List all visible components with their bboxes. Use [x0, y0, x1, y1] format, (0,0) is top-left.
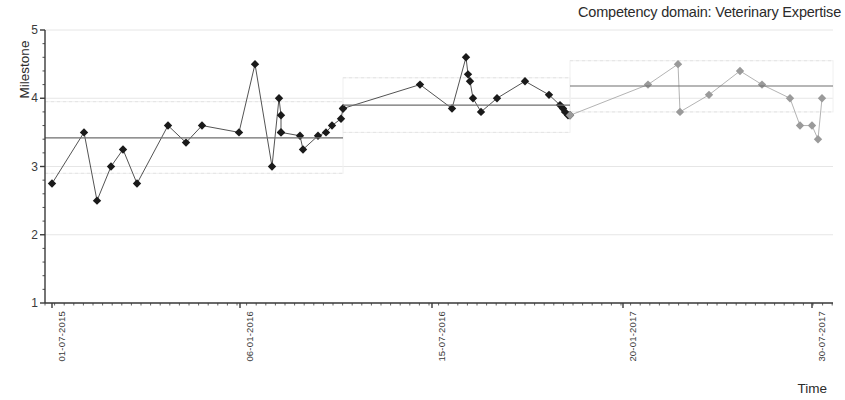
data-point: [48, 179, 56, 187]
plot-area: [0, 0, 845, 400]
data-point: [758, 80, 766, 88]
data-point: [277, 128, 285, 136]
data-point: [736, 67, 744, 75]
data-point: [296, 132, 304, 140]
data-point: [786, 94, 794, 102]
data-point: [814, 135, 822, 143]
data-point: [676, 108, 684, 116]
data-point: [462, 53, 470, 61]
data-point: [644, 80, 652, 88]
data-point: [80, 128, 88, 136]
data-point: [133, 179, 141, 187]
data-point: [277, 111, 285, 119]
data-point: [235, 128, 243, 136]
data-point: [808, 121, 816, 129]
chart-container: Competency domain: Veterinary Expertise …: [0, 0, 845, 400]
data-point: [337, 115, 345, 123]
series-line: [343, 57, 570, 115]
data-point: [796, 121, 804, 129]
data-point: [107, 162, 115, 170]
data-point: [416, 80, 424, 88]
data-point: [818, 94, 826, 102]
data-point: [469, 94, 477, 102]
series-line: [570, 64, 822, 139]
data-point: [93, 196, 101, 204]
data-point: [268, 162, 276, 170]
data-point: [251, 60, 259, 68]
data-point: [119, 145, 127, 153]
